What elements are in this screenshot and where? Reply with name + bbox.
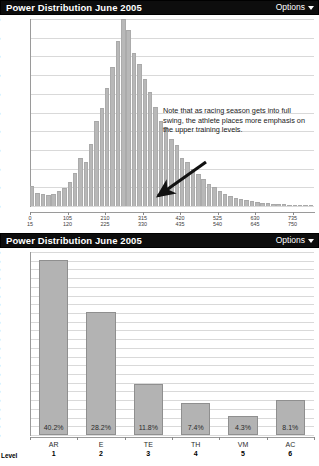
bar-value-label: 7.4% [182, 424, 209, 431]
gridline [30, 278, 314, 279]
gridline [30, 296, 314, 297]
gridline [30, 409, 314, 410]
gridline [30, 94, 314, 95]
histogram-bar [276, 204, 280, 206]
chevron-down-icon [308, 6, 314, 10]
histogram-bar [100, 108, 104, 206]
gridline [30, 56, 314, 57]
bar-chart-bar: 28.2% [86, 312, 115, 435]
gridline [30, 38, 314, 39]
gridline [30, 426, 314, 427]
histogram-bar [94, 121, 98, 206]
histogram-bar [228, 196, 232, 206]
histogram-bar [234, 198, 238, 206]
y-axis-line [30, 252, 31, 436]
histogram-bar [287, 205, 291, 206]
category-label-group: TE3 [144, 440, 153, 459]
bar-value-label: 40.2% [40, 424, 67, 431]
gridline [30, 330, 314, 331]
bar-chart-plot-area: 42%40%38%36%34%32%30%28%26%24%22%20%18%1… [0, 249, 319, 437]
screenshot-root: Power Distribution June 2005 Options 10%… [0, 0, 319, 466]
category-level: 6 [285, 449, 295, 459]
histogram-bar [282, 204, 286, 206]
histogram-bar [255, 202, 259, 206]
options-button-bottom[interactable]: Options [276, 234, 314, 247]
category-label-group: AR1 [49, 440, 59, 459]
bar-value-label: 11.8% [135, 424, 162, 431]
gridline [30, 383, 314, 384]
histogram-bar [84, 162, 88, 206]
x-axis-tick-label: 105120 [63, 216, 72, 227]
histogram-bar [137, 64, 141, 206]
histogram-bar [250, 201, 254, 206]
panel-titlebar-top: Power Distribution June 2005 Options [0, 0, 319, 15]
histogram-bar [116, 41, 120, 206]
gridline [30, 313, 314, 314]
panel-title: Power Distribution June 2005 [6, 234, 142, 247]
histogram-bar [298, 205, 302, 206]
gridline [30, 304, 314, 305]
gridline [30, 19, 314, 20]
category-label-group: TH4 [191, 440, 200, 459]
x-axis-tick-value: 435 [176, 222, 185, 228]
x-axis-tickmark [219, 437, 220, 440]
histogram-bar [110, 67, 114, 206]
y-axis-line [30, 19, 31, 207]
gridline [30, 75, 314, 76]
histogram-bar [271, 204, 275, 206]
histogram-bar [223, 194, 227, 206]
histogram-bar [73, 173, 77, 206]
histogram-x-axis: 0151051202102253153304204355255406306457… [0, 212, 319, 233]
gridline [30, 435, 314, 436]
gridline [30, 252, 314, 253]
x-axis-tick-value: 225 [101, 222, 110, 228]
histogram-bar [212, 187, 216, 206]
gridline [30, 269, 314, 270]
category-level: 2 [99, 449, 104, 459]
x-axis-tick-label: 210225 [101, 216, 110, 227]
histogram-bar [126, 30, 130, 206]
x-axis-tick-label: 525540 [213, 216, 222, 227]
bar-chart-bar: 8.1% [276, 400, 305, 435]
histogram-bar [132, 53, 136, 206]
bar-value-label: 4.3% [229, 424, 256, 431]
category-name: AC [285, 440, 295, 449]
x-axis-tick-value: 645 [251, 222, 260, 228]
category-label-group: VM5 [238, 440, 249, 459]
x-axis-tick-label: 735750 [288, 216, 297, 227]
power-distribution-histogram-panel: Power Distribution June 2005 Options 10%… [0, 0, 319, 233]
category-level: 5 [238, 449, 249, 459]
options-button-top[interactable]: Options [276, 1, 314, 14]
panel-title: Power Distribution June 2005 [6, 1, 142, 14]
bar-chart-x-axis: Level AR1E2TE3TH4VM5AC6 [0, 437, 319, 466]
options-button-label: Options [276, 234, 305, 247]
bar-chart-bar: 11.8% [134, 384, 163, 435]
x-axis-tickmark [125, 437, 126, 440]
category-level: 1 [49, 449, 59, 459]
bar-chart-bar: 40.2% [39, 260, 68, 435]
histogram-bar [303, 205, 307, 206]
x-axis-tickmark [77, 437, 78, 440]
x-axis-tick-value: 540 [213, 222, 222, 228]
histogram-bar [260, 203, 264, 206]
histogram-bar [35, 193, 39, 206]
category-label-group: AC6 [285, 440, 295, 459]
chevron-down-icon [308, 239, 314, 243]
gridline [30, 287, 314, 288]
bar-chart-bar: 4.3% [228, 416, 257, 435]
histogram-bar [218, 191, 222, 206]
x-axis-tick-value: 330 [138, 222, 147, 228]
options-button-label: Options [276, 1, 305, 14]
level-axis-caption: Level [1, 451, 17, 460]
x-axis-tick-value: 750 [288, 222, 297, 228]
histogram-bar [105, 88, 109, 206]
histogram-bar [46, 195, 50, 206]
category-name: E [99, 440, 104, 449]
histogram-bar [41, 194, 45, 206]
x-axis-tickmark [267, 437, 268, 440]
histogram-bar [266, 203, 270, 206]
gridline [30, 339, 314, 340]
category-name: TE [144, 440, 153, 449]
gridline [30, 365, 314, 366]
gridline [30, 357, 314, 358]
